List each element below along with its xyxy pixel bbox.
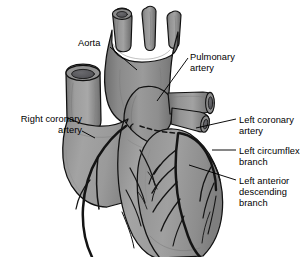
label-aorta: Aorta <box>78 38 100 49</box>
brachiocephalic-trunk <box>112 8 132 52</box>
label-left-coronary-artery: Left coronary artery <box>239 115 294 137</box>
left-subclavian-artery <box>167 11 181 48</box>
label-left-anterior-descending-branch: Left anterior descending branch <box>239 176 289 210</box>
label-pulmonary-artery: Pulmonary artery <box>190 52 235 74</box>
rpa-lumen <box>208 97 212 109</box>
svc-lumen <box>72 69 95 78</box>
label-right-coronary-artery: Right coronary artery <box>9 114 82 136</box>
label-left-circumflex-branch: Left circumflex branch <box>239 146 300 168</box>
brachiocephalic-lumen <box>117 12 128 18</box>
